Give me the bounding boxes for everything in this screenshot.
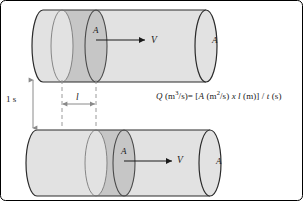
equation-lhs-units-open: (m <box>163 91 176 101</box>
equation-area-units-open: (m <box>204 91 217 101</box>
equation-area-units-close: /s) <box>220 91 232 101</box>
length-label: l <box>76 93 79 103</box>
velocity-label-bottom: V <box>177 156 183 166</box>
area-label-top-mid: A <box>93 26 99 35</box>
area-label-bottom-mid: A <box>121 147 127 156</box>
flow-rate-equation: Q (m3/s)= [A (m2/s) x l (m)] / t (s) <box>156 92 282 101</box>
equation-lhs-symbol: Q <box>156 91 163 101</box>
cylinder-bottom <box>26 128 221 200</box>
equation-length-units: (m)] / <box>241 91 267 101</box>
time-label: 1 s <box>6 95 16 104</box>
cylinder-top-right-cap <box>195 10 217 82</box>
area-label-top-right: A <box>212 36 218 45</box>
equation-lhs-units-close: /s)= [ <box>179 91 199 101</box>
flow-rate-diagram: A V A A V A l 1 s Q (m3/s)= [A (m2/s) x … <box>0 0 303 201</box>
equation-time-units: (s) <box>269 91 281 101</box>
cylinder-top <box>32 8 217 86</box>
area-label-bottom-right: A <box>216 157 222 166</box>
velocity-label-top: V <box>151 36 157 46</box>
